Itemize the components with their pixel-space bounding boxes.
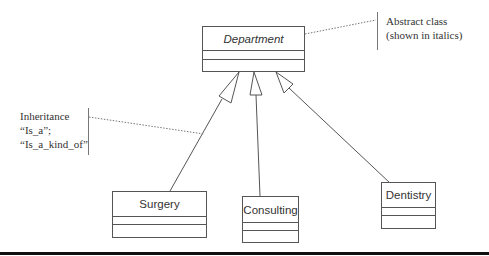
class-department: Department [202,26,305,72]
class-operations-dentistry [382,216,435,228]
class-operations-department [203,60,304,71]
inheritance-note-line-2: “Is_a”; [20,123,88,137]
inheritance-arrow-consulting [250,72,262,196]
class-attributes-dentistry [382,208,435,216]
class-consulting: Consulting [242,196,299,243]
class-operations-consulting [243,231,298,242]
inheritance-note-line-3: “Is_a_kind_of” [20,137,88,151]
class-attributes-surgery [113,217,206,225]
class-name-surgery: Surgery [113,192,206,217]
abstract-note-line-1: Abstract class [386,14,462,28]
class-attributes-department [203,51,304,60]
abstract-note-leader [305,12,378,50]
inheritance-note-leader [89,108,205,155]
abstract-note-line-2: (shown in italics) [386,28,462,42]
class-attributes-consulting [243,223,298,231]
uml-diagram: Department Surgery Consulting Dentistry … [0,0,489,256]
class-operations-surgery [113,225,206,237]
class-name-department: Department [203,27,304,51]
class-name-consulting: Consulting [243,197,298,223]
class-dentistry: Dentistry [381,182,436,229]
inheritance-note-line-1: Inheritance [20,109,88,123]
inheritance-arrow-dentistry [276,72,390,183]
class-surgery: Surgery [112,191,207,238]
class-name-dentistry: Dentistry [382,183,435,208]
abstract-class-note: Abstract class (shown in italics) [386,14,462,42]
inheritance-note: Inheritance “Is_a”; “Is_a_kind_of” [20,109,88,151]
inheritance-arrow-surgery [170,72,239,191]
